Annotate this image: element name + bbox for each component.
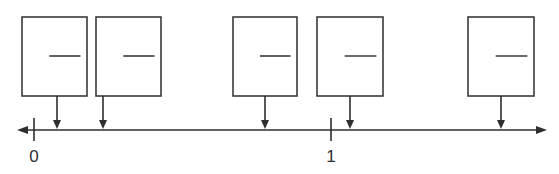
answer-box[interactable] <box>468 17 534 129</box>
down-arrowhead-icon <box>261 120 269 129</box>
number-line-ticks: 01 <box>29 118 335 166</box>
right-arrowhead-icon <box>536 126 547 134</box>
number-line-diagram: 01 <box>0 0 559 174</box>
left-arrowhead-icon <box>17 126 28 134</box>
answer-box[interactable] <box>317 17 383 129</box>
tick-label: 1 <box>326 147 335 166</box>
number-line <box>17 126 547 134</box>
tick-label: 0 <box>29 147 38 166</box>
answer-box[interactable] <box>233 17 297 129</box>
down-arrowhead-icon <box>99 120 107 129</box>
down-arrowhead-icon <box>497 120 505 129</box>
answer-boxes <box>22 17 534 129</box>
answer-box[interactable] <box>96 17 161 129</box>
answer-box[interactable] <box>22 17 87 129</box>
down-arrowhead-icon <box>346 120 354 129</box>
down-arrowhead-icon <box>53 120 61 129</box>
